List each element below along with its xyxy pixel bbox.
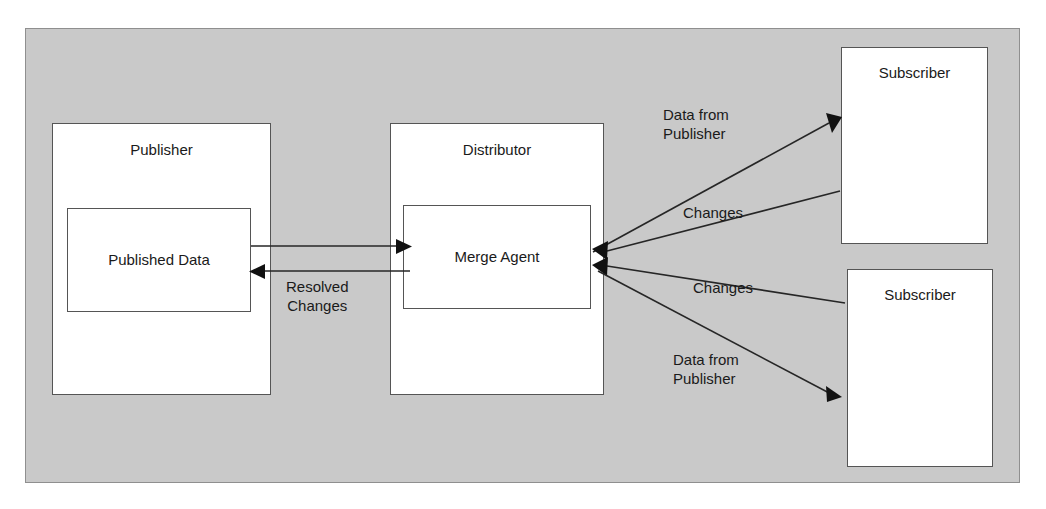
node-merge-agent-label: Merge Agent bbox=[404, 248, 590, 266]
edge-label-changes-top: Changes bbox=[683, 203, 743, 222]
edge-label-data-from-publisher-top: Data from Publisher bbox=[663, 105, 729, 143]
diagram-canvas: Publisher Published Data Distributor Mer… bbox=[0, 0, 1046, 509]
node-published-data[interactable]: Published Data bbox=[67, 208, 251, 312]
edge-label-changes-bottom: Changes bbox=[693, 278, 753, 297]
node-distributor-label: Distributor bbox=[391, 141, 603, 159]
edge-label-resolved-changes: Resolved Changes bbox=[286, 277, 349, 315]
node-published-data-label: Published Data bbox=[68, 251, 250, 269]
node-subscriber-1-label: Subscriber bbox=[842, 64, 987, 82]
node-subscriber-2-label: Subscriber bbox=[848, 286, 992, 304]
node-publisher-label: Publisher bbox=[53, 141, 270, 159]
node-merge-agent[interactable]: Merge Agent bbox=[403, 205, 591, 309]
edge-label-data-from-publisher-bottom: Data from Publisher bbox=[673, 350, 739, 388]
node-subscriber-1[interactable]: Subscriber bbox=[841, 47, 988, 244]
node-subscriber-2[interactable]: Subscriber bbox=[847, 269, 993, 467]
